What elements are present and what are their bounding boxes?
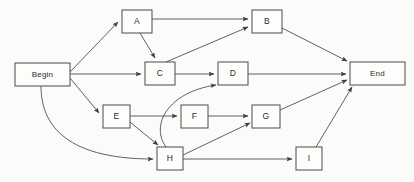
- node-c[interactable]: C: [145, 62, 175, 85]
- edge-begin-to-a: [70, 22, 118, 72]
- nodes-layer: BeginABCDEFGHIEnd: [15, 10, 405, 170]
- edge-a-to-c: [140, 33, 155, 58]
- graph-svg: BeginABCDEFGHIEnd: [0, 0, 414, 182]
- node-label-end: End: [370, 69, 385, 78]
- node-h[interactable]: H: [157, 147, 183, 170]
- edge-begin-to-h: [41, 86, 153, 159]
- node-label-b: B: [264, 16, 270, 26]
- edge-e-to-h: [130, 122, 158, 145]
- edge-b-to-end: [282, 28, 347, 61]
- node-label-h: H: [167, 153, 173, 163]
- edge-c-to-b: [166, 27, 248, 62]
- node-label-d: D: [230, 68, 236, 78]
- node-label-f: F: [192, 111, 197, 121]
- node-e[interactable]: E: [103, 105, 130, 128]
- node-b[interactable]: B: [252, 10, 282, 33]
- node-label-e: E: [114, 111, 120, 121]
- diagram-canvas: BeginABCDEFGHIEnd: [0, 0, 414, 182]
- node-d[interactable]: D: [218, 62, 248, 85]
- node-label-c: C: [157, 68, 163, 78]
- node-label-i: I: [308, 153, 311, 163]
- node-a[interactable]: A: [122, 10, 152, 33]
- edges-layer: [41, 19, 352, 159]
- edge-i-to-end: [316, 87, 352, 147]
- edge-g-to-end: [280, 80, 347, 110]
- node-g[interactable]: G: [252, 105, 280, 128]
- node-begin[interactable]: Begin: [15, 63, 70, 86]
- node-label-g: G: [263, 111, 270, 121]
- node-end[interactable]: End: [350, 62, 405, 85]
- node-label-a: A: [134, 16, 140, 26]
- node-f[interactable]: F: [181, 105, 208, 128]
- node-label-begin: Begin: [32, 70, 53, 79]
- node-i[interactable]: I: [296, 147, 322, 170]
- edge-begin-to-e: [70, 78, 99, 113]
